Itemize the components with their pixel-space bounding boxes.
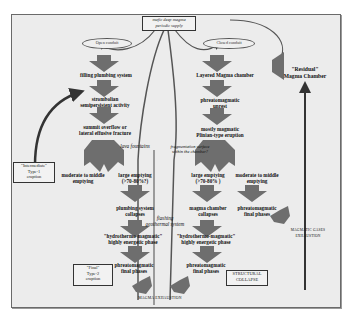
type2-eruption-box: "Final" Type-2 eruption — [73, 264, 113, 286]
gases-line2: EXHAUSTION — [288, 233, 328, 239]
type1-eruption-box: "Intermediate" Type-1 eruption — [13, 162, 55, 183]
right-step-12: collapses — [186, 211, 230, 217]
collapse-line1: STRUCTURAL — [227, 271, 267, 277]
right-step-10: emptying — [232, 178, 282, 184]
left-step-13: highly energetic phase — [103, 239, 163, 245]
open-conduit-ellipse: Open conduit — [82, 38, 132, 49]
left-step-0: filling plumbing system — [80, 72, 130, 78]
left-step-5: lava fountains — [115, 143, 155, 149]
type2-line3: eruption — [74, 276, 112, 282]
left-step-4: lateral effusive fracture — [76, 130, 134, 136]
right-step-0: Layered Magma chamber — [190, 72, 260, 78]
closed-conduit-ellipse: Closed conduit — [203, 38, 255, 49]
deep-magma-supply-box: mafic deep magma periodic supply — [142, 16, 196, 31]
left-step-15: final phases — [110, 268, 158, 274]
residual-line2: Magma Chamber — [280, 73, 330, 79]
left-step-7: emptying — [58, 178, 108, 184]
left-step-9: (>70-80%?) — [113, 178, 157, 184]
right-step-4: Plinian-type eruption — [190, 132, 250, 138]
collapse-line2: COLLAPSE — [227, 277, 267, 283]
diagram-arrows — [0, 0, 349, 320]
magma-exhaustion-label: MAGMA EXHAUSTION — [130, 295, 190, 301]
top-box-line2: periodic supply — [143, 23, 195, 29]
right-step-6: within the chamber? — [168, 149, 212, 155]
right-step-18: final phases — [182, 268, 230, 274]
right-step-16: highly energetic phase — [176, 239, 236, 245]
geothermal-label: geothermal system — [140, 221, 190, 227]
structural-collapse-box: STRUCTURAL COLLAPSE — [226, 270, 268, 286]
closed-conduit-label: Closed conduit — [216, 40, 241, 45]
type1-line3: eruption — [14, 174, 54, 180]
residual-line1: "Residual" — [285, 66, 325, 72]
right-step-2: unrest — [195, 103, 245, 109]
right-step-8: (>70-80% ) — [186, 178, 230, 184]
left-step-2: semipersistent activity — [76, 102, 134, 108]
open-conduit-label: Open conduit — [96, 40, 119, 45]
right-step-14: final phases — [233, 211, 281, 217]
